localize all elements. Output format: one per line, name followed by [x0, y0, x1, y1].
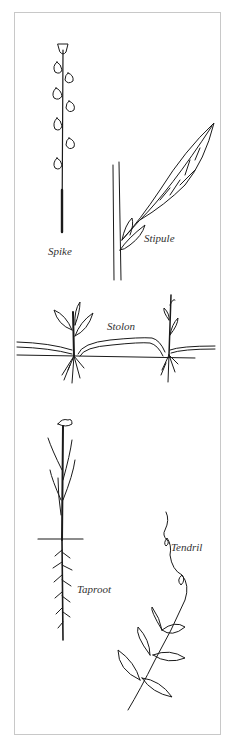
stolon-label: Stolon [107, 320, 135, 332]
botanical-illustrations [0, 0, 236, 750]
stolon-illustration [17, 295, 215, 383]
taproot-label: Taproot [77, 583, 111, 595]
taproot-illustration [38, 420, 83, 641]
stipule-illustration [113, 123, 214, 280]
stipule-label: Stipule [144, 232, 175, 244]
spike-illustration [53, 44, 75, 232]
spike-label: Spike [48, 245, 72, 257]
tendril-label: Tendril [171, 541, 202, 553]
